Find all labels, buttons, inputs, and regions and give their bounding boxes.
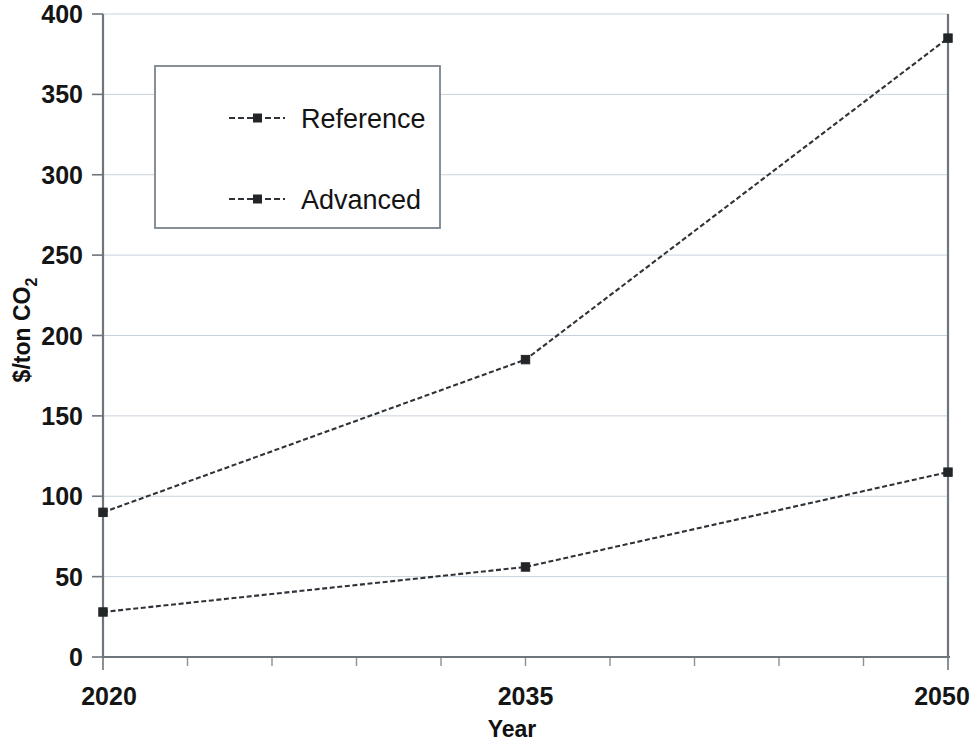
y-axis-tick-label: 0 — [69, 643, 83, 671]
line-chart: 050100150200250300350400 202020352050 $/… — [0, 0, 977, 745]
y-axis-title-text: $/ton CO — [9, 287, 35, 383]
data-point-marker — [944, 468, 952, 476]
chart-container: 050100150200250300350400 202020352050 $/… — [0, 0, 977, 745]
x-axis-tick-label: 2020 — [81, 682, 137, 710]
y-axis-tick-label: 350 — [41, 80, 83, 108]
y-axis-tick-label: 250 — [41, 241, 83, 269]
x-axis-tick-label: 2035 — [498, 682, 554, 710]
legend-swatch-marker — [253, 195, 262, 204]
x-axis-title: Year — [488, 716, 537, 742]
y-axis-tick-label: 100 — [41, 482, 83, 510]
y-axis-tick-label: 150 — [41, 402, 83, 430]
data-point-marker — [521, 563, 529, 571]
legend-swatch-marker — [253, 114, 262, 123]
x-axis-tick-label: 2050 — [914, 682, 970, 710]
legend-label-advanced: Advanced — [301, 185, 421, 215]
data-point-marker — [521, 355, 529, 363]
legend-label-reference: Reference — [301, 104, 426, 134]
data-point-marker — [99, 508, 107, 516]
y-axis-title-subscript: 2 — [23, 278, 40, 287]
chart-legend: ReferenceAdvanced — [155, 66, 440, 228]
data-point-marker — [944, 34, 952, 42]
y-axis-tick-label: 400 — [41, 0, 83, 28]
y-axis-tick-label: 200 — [41, 322, 83, 350]
chart-background — [0, 0, 977, 745]
y-axis-tick-label: 50 — [55, 563, 83, 591]
y-axis-tick-label: 300 — [41, 161, 83, 189]
data-point-marker — [99, 608, 107, 616]
